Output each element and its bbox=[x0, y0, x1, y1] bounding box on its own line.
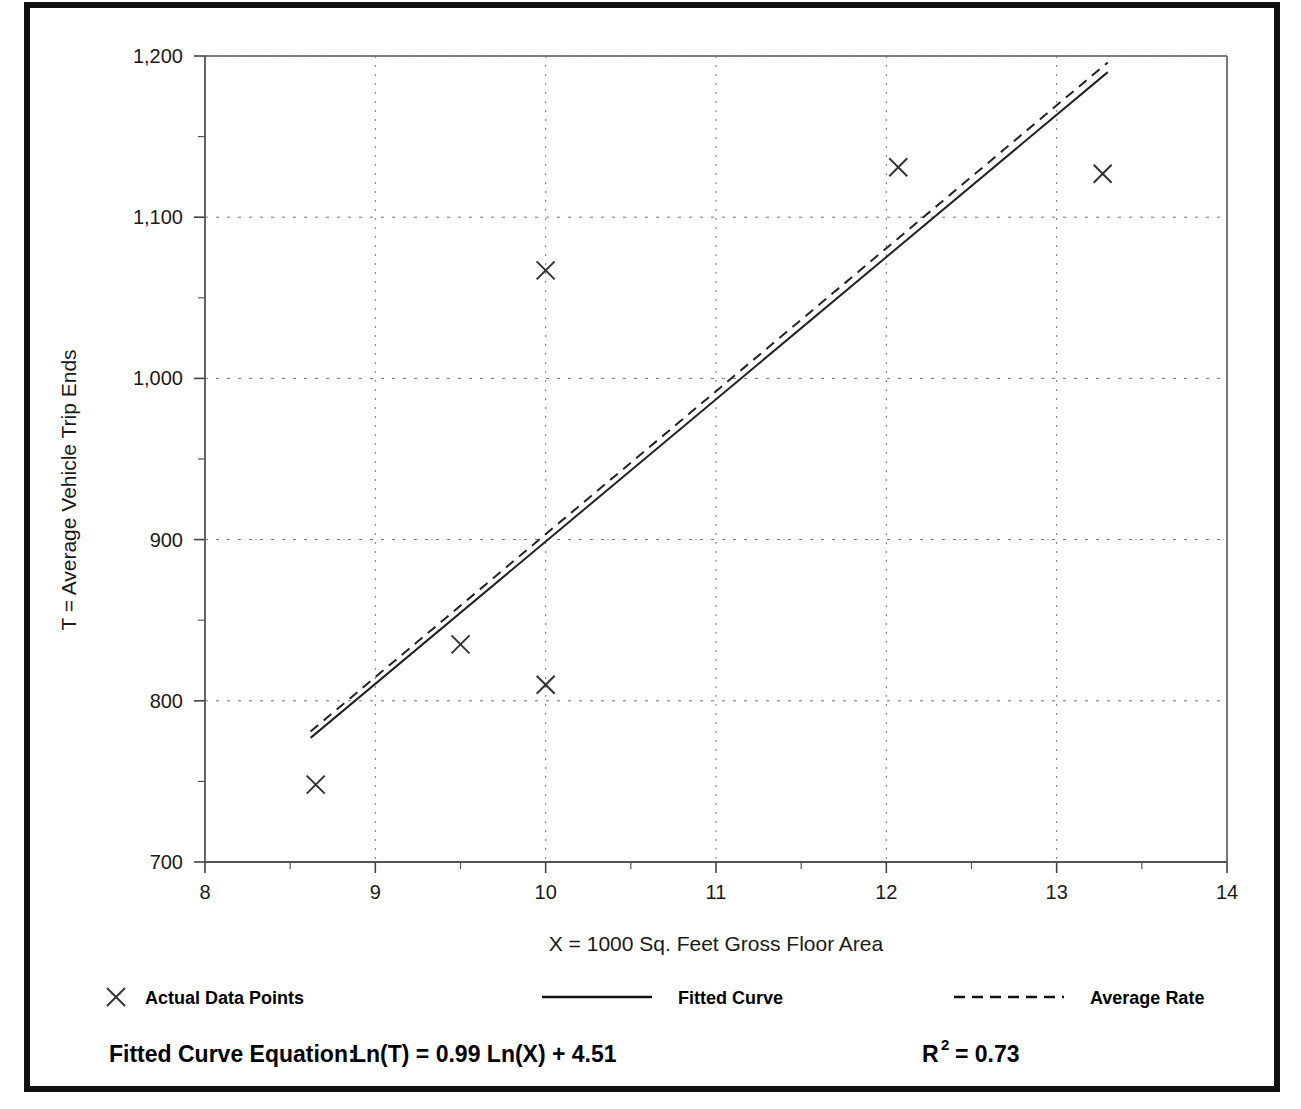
y-tick-label: 800 bbox=[150, 690, 183, 712]
y-axis-title: T = Average Vehicle Trip Ends bbox=[57, 349, 80, 630]
r-squared-value: = 0.73 bbox=[955, 1041, 1020, 1067]
r-squared-symbol: R bbox=[922, 1041, 939, 1067]
data-point-marker bbox=[452, 635, 470, 653]
series-data-points bbox=[307, 158, 1112, 793]
grid-lines bbox=[205, 56, 1227, 862]
fitted-curve-equation-label: Fitted Curve Equation: bbox=[109, 1041, 356, 1067]
r-squared-exponent: 2 bbox=[941, 1036, 949, 1053]
data-point-marker bbox=[307, 776, 325, 794]
chart-legend: Actual Data Points Fitted Curve Average … bbox=[107, 988, 1204, 1008]
x-tick-label: 14 bbox=[1216, 881, 1238, 903]
series-line-average-rate bbox=[311, 62, 1108, 731]
legend-label-average-rate: Average Rate bbox=[1090, 988, 1204, 1008]
x-tick-label: 13 bbox=[1046, 881, 1068, 903]
legend-label-actual-data-points: Actual Data Points bbox=[145, 988, 304, 1008]
y-tick-label: 1,100 bbox=[133, 206, 183, 228]
x-tick-label: 12 bbox=[875, 881, 897, 903]
y-tick-label: 900 bbox=[150, 529, 183, 551]
x-tick-label: 9 bbox=[370, 881, 381, 903]
y-axis-tick-labels: 7008009001,0001,1001,200 bbox=[133, 45, 183, 873]
y-tick-label: 700 bbox=[150, 851, 183, 873]
chart-figure: 7008009001,0001,1001,200 891011121314 X … bbox=[0, 0, 1301, 1109]
axis-ticks bbox=[194, 56, 1227, 873]
regression-scatter-chart: 7008009001,0001,1001,200 891011121314 X … bbox=[0, 0, 1301, 1109]
x-tick-label: 8 bbox=[199, 881, 210, 903]
series-line-fitted-curve bbox=[311, 72, 1108, 738]
data-point-marker bbox=[1094, 165, 1112, 183]
legend-label-fitted-curve: Fitted Curve bbox=[678, 988, 783, 1008]
data-point-marker bbox=[889, 158, 907, 176]
footer-equation-row: Fitted Curve Equation: Ln(T) = 0.99 Ln(X… bbox=[109, 1036, 1020, 1067]
y-tick-label: 1,200 bbox=[133, 45, 183, 67]
x-tick-label: 10 bbox=[535, 881, 557, 903]
x-axis-title: X = 1000 Sq. Feet Gross Floor Area bbox=[549, 932, 884, 955]
legend-item-fitted-curve: Fitted Curve bbox=[542, 988, 783, 1008]
legend-item-average-rate: Average Rate bbox=[954, 988, 1204, 1008]
x-axis-tick-labels: 891011121314 bbox=[199, 881, 1238, 903]
x-tick-label: 11 bbox=[706, 881, 727, 903]
fitted-curve-equation-value: Ln(T) = 0.99 Ln(X) + 4.51 bbox=[352, 1041, 617, 1067]
y-tick-label: 1,000 bbox=[133, 367, 183, 389]
series-lines bbox=[311, 62, 1108, 737]
legend-item-actual-data-points: Actual Data Points bbox=[107, 988, 304, 1008]
x-marker-icon bbox=[107, 988, 125, 1006]
